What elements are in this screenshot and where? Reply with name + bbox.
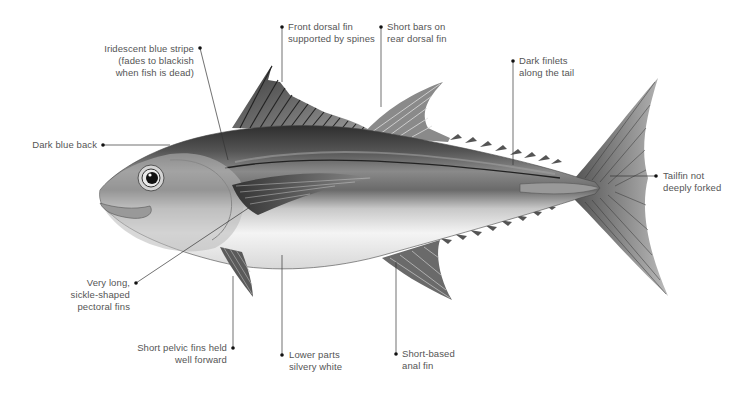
label-front-dorsal-fin: Front dorsal fin supported by spines — [288, 21, 375, 45]
fish-head — [100, 153, 244, 251]
label-rear-dorsal-fin: Short bars on rear dorsal fin — [387, 21, 447, 45]
label-dark-blue-back: Dark blue back — [32, 139, 97, 151]
label-lower-parts: Lower parts silvery white — [289, 349, 342, 373]
label-pelvic-fins: Short pelvic fins held well forward — [137, 342, 227, 366]
front-dorsal-fin — [232, 65, 372, 132]
tuna-diagram: Iridescent blue stripe (fades to blackis… — [0, 0, 753, 393]
label-dark-finlets: Dark finlets along the tail — [519, 55, 574, 79]
eye — [138, 165, 164, 191]
label-tailfin: Tailfin not deeply forked — [663, 170, 721, 194]
label-pectoral-fins: Very long, sickle-shaped pectoral fins — [71, 277, 130, 313]
label-anal-fin: Short-based anal fin — [402, 348, 455, 372]
label-iridescent-stripe: Iridescent blue stripe (fades to blackis… — [104, 43, 194, 79]
